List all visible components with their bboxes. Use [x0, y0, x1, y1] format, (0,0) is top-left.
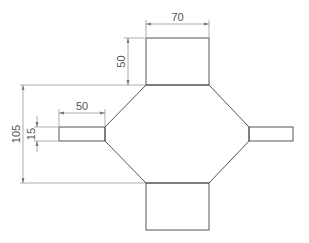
dim-label-70: 70	[171, 11, 183, 23]
right-port	[249, 127, 293, 141]
dim-label-15: 15	[25, 128, 37, 140]
dim-label-50-horizontal: 50	[76, 100, 88, 112]
octagon-body	[105, 85, 249, 183]
dimension-top-width: 70	[146, 11, 209, 37]
dimension-side-height: 15	[25, 116, 58, 152]
technical-drawing: 70 50 105 50 15	[0, 0, 309, 243]
bottom-port	[146, 183, 209, 230]
top-port	[146, 38, 209, 85]
dimension-side-length: 50	[59, 100, 105, 126]
left-port	[59, 127, 105, 141]
dim-label-105: 105	[10, 125, 22, 143]
dimension-top-height: 50	[115, 38, 145, 85]
dim-label-50-vertical: 50	[115, 55, 127, 67]
